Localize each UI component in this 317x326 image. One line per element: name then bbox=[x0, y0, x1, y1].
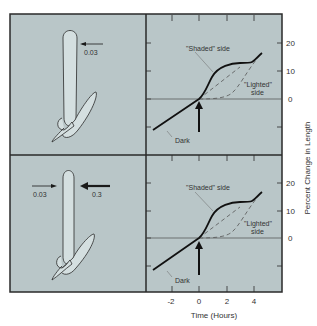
coleoptile-shoot bbox=[63, 31, 77, 127]
dark-label: Dark bbox=[175, 277, 190, 284]
lighted-side-label-1: "Lighted" bbox=[244, 220, 272, 228]
x-axis-labels: -2 0 2 4 bbox=[167, 297, 256, 306]
bottom-ytick-20: 20 bbox=[286, 179, 295, 188]
shaded-side-label: "Shaded" side bbox=[186, 184, 230, 191]
top-arrow-label: 0.03 bbox=[84, 49, 98, 56]
right-y-axis-labels: 20 10 0 20 10 0 bbox=[286, 39, 295, 243]
xtick-0: 0 bbox=[197, 297, 202, 306]
bottom-ytick-0: 0 bbox=[288, 234, 293, 243]
lighted-side-label-2: side bbox=[251, 89, 264, 96]
y-axis-title: Percent Change in Length bbox=[303, 122, 312, 215]
bottom-ytick-10: 10 bbox=[286, 207, 295, 216]
top-ytick-20: 20 bbox=[286, 39, 295, 48]
coleoptile-shoot bbox=[63, 171, 74, 265]
shaded-side-label: "Shaded" side bbox=[186, 45, 230, 52]
xtick-4: 4 bbox=[252, 297, 257, 306]
top-ytick-0: 0 bbox=[288, 95, 293, 104]
x-axis-title: Time (Hours) bbox=[191, 311, 238, 320]
lighted-side-label-2: side bbox=[251, 228, 264, 235]
xtick-2: 2 bbox=[225, 297, 230, 306]
figure: 0.03 0.03 0.3 bbox=[0, 0, 317, 326]
xtick-neg2: -2 bbox=[167, 297, 175, 306]
dark-label: Dark bbox=[175, 137, 190, 144]
lighted-side-label-1: "Lighted" bbox=[244, 81, 272, 89]
bottom-strong-arrow-label: 0.3 bbox=[92, 191, 102, 198]
bottom-weak-arrow-label: 0.03 bbox=[33, 191, 47, 198]
top-ytick-10: 10 bbox=[286, 67, 295, 76]
